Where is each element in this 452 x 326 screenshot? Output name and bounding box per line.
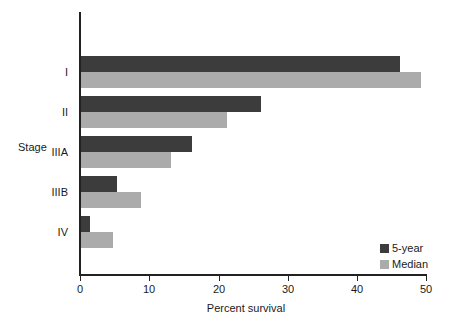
x-tick-40 — [357, 276, 358, 281]
legend-item-median: Median — [380, 257, 428, 271]
x-tick-0 — [80, 276, 81, 281]
category-label-II: II — [62, 106, 68, 118]
bar-median-II — [81, 112, 227, 128]
x-tick-30 — [288, 276, 289, 281]
bar-5year-IIIA — [81, 136, 192, 152]
bar-5year-IV — [81, 216, 90, 232]
y-axis-title: Stage — [18, 141, 47, 153]
chart-legend: 5-year Median — [380, 241, 428, 273]
x-tick-20 — [219, 276, 220, 281]
x-tick-label-50: 50 — [420, 283, 432, 295]
bar-median-IV — [81, 232, 113, 248]
x-tick-label-10: 10 — [143, 283, 155, 295]
x-tick-label-30: 30 — [282, 283, 294, 295]
category-label-IV: IV — [58, 226, 68, 238]
x-axis-title: Percent survival — [0, 302, 452, 314]
x-tick-10 — [149, 276, 150, 281]
category-label-I: I — [65, 66, 68, 78]
bar-5year-IIIB — [81, 176, 117, 192]
legend-item-5year: 5-year — [380, 241, 428, 255]
bar-median-I — [81, 72, 421, 88]
x-tick-50 — [426, 276, 427, 281]
legend-label-5year: 5-year — [392, 242, 423, 254]
x-tick-label-0: 0 — [77, 283, 83, 295]
x-axis-title-text: Percent survival — [207, 302, 285, 314]
legend-swatch-5year-icon — [380, 244, 389, 253]
x-tick-label-40: 40 — [351, 283, 363, 295]
category-label-IIIB: IIIB — [51, 186, 68, 198]
x-tick-label-20: 20 — [213, 283, 225, 295]
survival-bar-chart: 0 10 20 30 40 50 I II IIIA IIIB IV Stage… — [0, 0, 452, 326]
legend-swatch-median-icon — [380, 260, 389, 269]
legend-label-median: Median — [392, 258, 428, 270]
bar-median-IIIA — [81, 152, 171, 168]
bar-5year-II — [81, 96, 261, 112]
bar-5year-I — [81, 56, 400, 72]
bar-median-IIIB — [81, 192, 141, 208]
plot-area — [81, 12, 427, 274]
x-axis-line — [79, 274, 427, 276]
category-label-IIIA: IIIA — [51, 146, 68, 158]
